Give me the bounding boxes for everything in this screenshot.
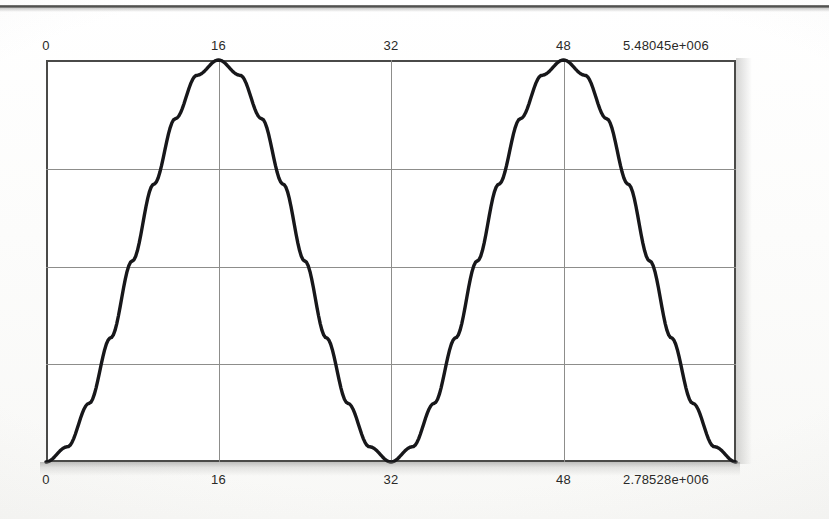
scanned-chart-page: 0 16 32 48 5.48045e+006 0 16 32 48 2.785… [0, 0, 829, 519]
bottom-axis-tick-label-48: 48 [556, 472, 571, 487]
bottom-axis-tick-label-0: 0 [42, 472, 49, 487]
top-right-max-value-label: 5.48045e+006 [623, 38, 709, 53]
chart-plot-area [46, 60, 736, 462]
top-axis-tick-label-32: 32 [384, 38, 399, 53]
scan-smudge-right [736, 58, 752, 464]
sinusoid-curve [46, 60, 736, 462]
curve-path [46, 60, 736, 462]
top-axis-tick-label-0: 0 [42, 38, 49, 53]
bottom-axis-tick-label-32: 32 [384, 472, 399, 487]
bottom-axis-tick-label-16: 16 [211, 472, 226, 487]
top-axis-tick-label-16: 16 [211, 38, 226, 53]
page-top-rule-shadow [0, 8, 829, 12]
bottom-right-max-value-label: 2.78528e+006 [623, 472, 709, 487]
top-axis-tick-label-48: 48 [556, 38, 571, 53]
